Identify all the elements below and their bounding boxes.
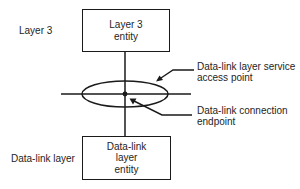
- sap-arrow-line: [161, 70, 194, 78]
- layer3-entity-box: Layer 3 entity: [82, 9, 170, 52]
- cep-arrow-line: [134, 101, 192, 115]
- layer3-label: Layer 3: [19, 25, 52, 36]
- layer3-entity-line2: entity: [114, 31, 138, 43]
- connection-endpoint-dot: [123, 92, 128, 97]
- sap-arrow-head-icon: [156, 76, 163, 82]
- data-link-entity-line3: entity: [115, 164, 139, 176]
- data-link-entity-box: Data-link layer entity: [82, 136, 171, 180]
- osi-sap-diagram: Layer 3 Data-link layer Layer 3 entity D…: [0, 0, 300, 189]
- data-link-entity-line2: layer: [116, 152, 138, 164]
- sap-annotation-line1: Data-link layer service: [197, 61, 295, 72]
- layer3-entity-line1: Layer 3: [109, 19, 142, 31]
- cep-annotation-line1: Data-link connection: [197, 105, 288, 116]
- cep-annotation-line2: endpoint: [197, 116, 235, 127]
- sap-annotation-line2: access point: [197, 72, 253, 83]
- data-link-entity-line1: Data-link: [107, 141, 146, 153]
- data-link-layer-label: Data-link layer: [11, 153, 75, 164]
